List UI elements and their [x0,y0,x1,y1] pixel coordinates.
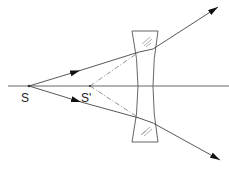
lens-outline [132,31,158,142]
virtual-ray-upper [90,52,139,86]
ray-upper [29,7,218,86]
lens-hatch-bottom [141,127,152,136]
source-point [28,85,31,88]
ray-lower [29,86,220,160]
lens-ray-diagram: S S' [0,0,229,176]
image-label: S' [81,91,91,105]
source-label: S [21,91,29,105]
virtual-ray-lower [90,86,139,118]
lens-hatch-top [142,37,152,47]
image-point [89,85,91,87]
diverging-lens [132,31,158,142]
